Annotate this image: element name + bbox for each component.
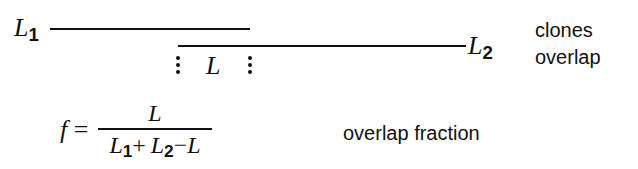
denom-term2: L [151, 132, 164, 158]
denom-minus: − [174, 132, 188, 158]
formula-numerator: L [148, 100, 161, 126]
clones-label: clones [535, 19, 593, 41]
denom-term3: L [187, 132, 200, 158]
denom-term2-sub: 2 [164, 141, 174, 161]
formula-denominator: L1+ L2−L [109, 132, 200, 164]
clone1-label: L1 [14, 14, 39, 49]
clone1-symbol: L [14, 13, 28, 42]
clone1-line [50, 28, 250, 30]
formula-lhs: f = [60, 116, 88, 144]
overlap-fraction-label: overlap fraction [343, 122, 480, 144]
clone2-label: L2 [468, 32, 493, 67]
overlap-length-symbol: L [206, 52, 220, 80]
clone2-subscript: 2 [482, 42, 492, 63]
clone2-symbol: L [468, 31, 482, 60]
formula-equals: = [74, 115, 89, 144]
clone2-line [178, 45, 466, 47]
overlap-start-marker [176, 56, 180, 77]
clone1-subscript: 1 [28, 24, 38, 45]
formula-fraction: L L1+ L2−L [98, 100, 212, 164]
denom-term1: L [109, 132, 122, 158]
fraction-bar [98, 128, 212, 130]
denom-plus: + [132, 132, 146, 158]
overlap-label: overlap [535, 46, 601, 68]
formula-f: f [60, 115, 67, 144]
denom-term1-sub: 1 [123, 141, 133, 161]
overlap-end-marker [248, 56, 252, 77]
